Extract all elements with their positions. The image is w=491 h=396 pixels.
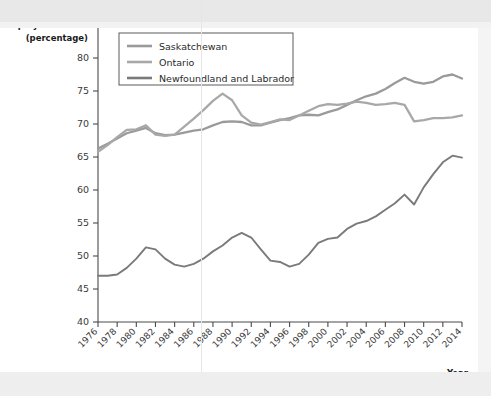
x-tick-label: 2000 bbox=[306, 326, 329, 349]
x-tick-label: 2002 bbox=[325, 326, 348, 349]
y-axis-tick-group: 40455055606570758085 bbox=[77, 19, 98, 327]
x-tick-label: 1982 bbox=[134, 326, 157, 349]
x-tick-label: 2008 bbox=[383, 326, 406, 349]
y-tick-label: 45 bbox=[77, 283, 89, 294]
x-tick-label: 1976 bbox=[76, 326, 99, 349]
scan-artifact-fold-line bbox=[201, 0, 202, 372]
x-axis-tick-group: 1976197819801982198419861988199019921994… bbox=[76, 322, 463, 350]
legend-label-1: Saskatchewan bbox=[159, 41, 227, 52]
x-tick-label: 1996 bbox=[268, 326, 291, 349]
series-line-newfoundland-and-labrador bbox=[98, 156, 462, 276]
x-tick-label: 1984 bbox=[153, 326, 176, 349]
x-tick-label: 1992 bbox=[229, 326, 252, 349]
x-tick-label: 1988 bbox=[191, 326, 214, 349]
x-tick-label: 2010 bbox=[402, 326, 425, 349]
y-tick-label: 65 bbox=[77, 151, 89, 162]
legend-label-2: Ontario bbox=[159, 57, 195, 68]
y-axis-title-line2: (percentage) bbox=[26, 33, 88, 43]
y-tick-label: 80 bbox=[77, 52, 89, 63]
x-tick-label: 1986 bbox=[172, 326, 195, 349]
x-tick-label: 1998 bbox=[287, 326, 310, 349]
legend-label-3: Newfoundland and Labrador bbox=[159, 73, 294, 84]
scan-artifact-edge-right bbox=[478, 28, 491, 372]
y-tick-label: 70 bbox=[77, 118, 89, 129]
x-tick-label: 2004 bbox=[344, 326, 367, 349]
x-tick-label: 2014 bbox=[440, 326, 463, 349]
scan-artifact-band-top-secondary bbox=[0, 22, 491, 28]
y-tick-label: 60 bbox=[77, 184, 89, 195]
x-tick-label: 2006 bbox=[364, 326, 387, 349]
x-tick-label: 1990 bbox=[210, 326, 233, 349]
x-tick-label: 1980 bbox=[114, 326, 137, 349]
x-tick-label: 1978 bbox=[95, 326, 118, 349]
scan-artifact-band-top bbox=[0, 0, 491, 22]
scan-artifact-band-bottom bbox=[0, 372, 491, 396]
y-tick-label: 55 bbox=[77, 217, 89, 228]
chart-legend: SaskatchewanOntarioNewfoundland and Labr… bbox=[119, 33, 294, 85]
x-tick-label: 2012 bbox=[421, 326, 444, 349]
x-tick-label: 1994 bbox=[249, 326, 272, 349]
y-tick-label: 50 bbox=[77, 250, 89, 261]
series-line-ontario bbox=[98, 94, 462, 152]
y-tick-label: 40 bbox=[77, 316, 89, 327]
line-chart-svg: Employment Rate (percentage) Year 404550… bbox=[0, 0, 491, 396]
y-tick-label: 75 bbox=[77, 85, 89, 96]
series-lines-group bbox=[98, 75, 462, 276]
chart-container: Employment Rate (percentage) Year 404550… bbox=[0, 0, 491, 396]
